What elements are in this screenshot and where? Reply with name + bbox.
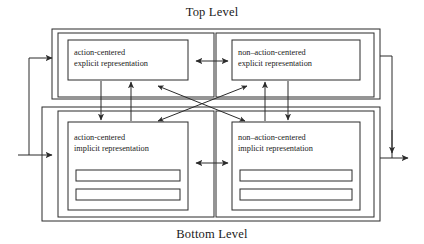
top-right-module-label: non–action-centered explicit representat… (238, 47, 312, 70)
bottom-right-subsystem-frame (216, 111, 374, 217)
bottom-right-module-line2: implicit representation (238, 143, 313, 154)
bottom-right-module-line1: non–action-centered (238, 132, 313, 143)
bottom-left-network-bar-2 (76, 189, 180, 200)
bottom-right-network-bar-2 (240, 189, 352, 200)
clarion-architecture-figure: Top Level Bottom Level (0, 0, 424, 244)
output-bus-line (380, 56, 392, 150)
bottom-level-container (42, 107, 380, 221)
input-bus-line (18, 58, 29, 155)
bottom-left-module-line2: implicit representation (74, 143, 149, 154)
diagram-vector-layer (0, 0, 424, 244)
bottom-left-subsystem-frame (58, 111, 214, 217)
top-right-module-line2: explicit representation (238, 58, 312, 69)
top-right-module-line1: non–action-centered (238, 47, 312, 58)
bottom-left-module-label: action-centered implicit representation (74, 132, 149, 155)
top-left-module-line2: explicit representation (74, 58, 148, 69)
bottom-left-module-line1: action-centered (74, 132, 149, 143)
top-left-module-line1: action-centered (74, 47, 148, 58)
bottom-right-network-bar-1 (240, 170, 352, 181)
bottom-right-module-label: non–action-centered implicit representat… (238, 132, 313, 155)
bottom-left-network-bar-1 (76, 170, 180, 181)
top-left-module-label: action-centered explicit representation (74, 47, 148, 70)
